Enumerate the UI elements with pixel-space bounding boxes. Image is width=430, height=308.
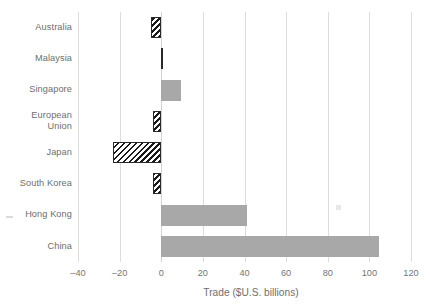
x-tick-120: 120 bbox=[403, 268, 418, 279]
x-axis-title: Trade ($U.S. billions) bbox=[0, 287, 430, 298]
y-axis-label-south-korea: South Korea bbox=[0, 178, 72, 188]
x-tick-20: 20 bbox=[198, 268, 208, 279]
gridline--40 bbox=[78, 12, 79, 262]
gridline-60 bbox=[286, 12, 287, 262]
x-axis-title-text: Trade ($U.S. billions) bbox=[203, 287, 298, 298]
gridline-120 bbox=[411, 12, 412, 262]
x-tick-0: 0 bbox=[159, 268, 164, 279]
bar-chart: AustraliaMalaysiaSingaporeEuropean Union… bbox=[0, 0, 430, 308]
y-axis-label-china: China bbox=[0, 241, 72, 251]
bar-hong-kong[interactable] bbox=[161, 205, 246, 226]
bar-japan[interactable] bbox=[113, 142, 161, 163]
paper-speck-1 bbox=[6, 216, 13, 218]
y-axis-label-malaysia: Malaysia bbox=[0, 53, 72, 63]
x-tick--20: –20 bbox=[112, 268, 127, 279]
x-tick-80: 80 bbox=[323, 268, 333, 279]
y-axis-label-australia: Australia bbox=[0, 22, 72, 32]
y-axis-label-european-union: European Union bbox=[0, 110, 72, 131]
x-tick--40: –40 bbox=[70, 268, 85, 279]
gridline-80 bbox=[328, 12, 329, 262]
bar-australia[interactable] bbox=[151, 17, 161, 38]
gridline-100 bbox=[369, 12, 370, 262]
bar-singapore[interactable] bbox=[161, 80, 181, 101]
bar-european-union[interactable] bbox=[153, 111, 162, 132]
bar-south-korea[interactable] bbox=[153, 173, 161, 194]
bar-china[interactable] bbox=[161, 236, 378, 257]
x-tick-100: 100 bbox=[362, 268, 377, 279]
y-axis-label-hong-kong: Hong Kong bbox=[0, 209, 72, 219]
y-axis-label-japan: Japan bbox=[0, 147, 72, 157]
paper-speck-2 bbox=[336, 205, 341, 210]
y-axis-label-singapore: Singapore bbox=[0, 84, 72, 94]
x-tick-40: 40 bbox=[239, 268, 249, 279]
gridline--20 bbox=[120, 12, 121, 262]
bar-malaysia[interactable] bbox=[161, 48, 163, 69]
y-axis-category-labels: AustraliaMalaysiaSingaporeEuropean Union… bbox=[0, 0, 72, 262]
plot-area bbox=[78, 12, 411, 262]
x-tick-60: 60 bbox=[281, 268, 291, 279]
